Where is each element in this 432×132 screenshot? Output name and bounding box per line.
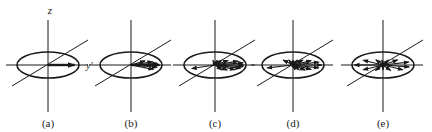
- panel-caption: (b): [125, 117, 138, 130]
- x-axis: [12, 40, 88, 86]
- panel-c: (c): [173, 20, 255, 130]
- panel-d: (d): [251, 20, 333, 130]
- dephasing-diagram: (a)zy'(b)(c)(d)(e): [0, 0, 432, 132]
- panel-caption: (a): [42, 117, 55, 130]
- panel-caption: (c): [209, 117, 222, 130]
- panel-caption: (e): [377, 117, 390, 130]
- panel-caption: (d): [287, 117, 300, 130]
- panel-b: (b): [89, 20, 171, 130]
- x-axis: [95, 40, 171, 86]
- z-axis-label: z: [47, 4, 53, 16]
- panel-a: (a)zy': [6, 4, 93, 130]
- panel-e: (e): [341, 20, 423, 130]
